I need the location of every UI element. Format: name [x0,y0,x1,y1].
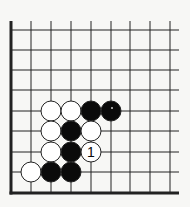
white-stone: 1 [81,142,101,162]
black-stone [61,142,81,162]
white-stone [61,101,81,121]
black-stone [81,101,101,121]
black-stone [61,162,81,182]
go-board: 1 [0,0,190,207]
move-number-label: 1 [87,144,95,160]
black-stone [101,101,121,121]
stones: 1 [21,101,121,182]
black-stone [41,162,61,182]
white-stone [41,101,61,121]
white-stone [41,142,61,162]
white-stone [81,121,101,141]
white-stone [41,121,61,141]
white-stone [21,162,41,182]
black-stone [61,121,81,141]
stone-mark-icon [111,107,113,109]
